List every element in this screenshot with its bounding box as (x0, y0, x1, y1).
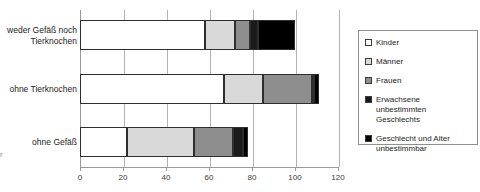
x-tick (338, 167, 339, 171)
bar-segment (224, 74, 263, 104)
x-tick-label: 40 (162, 173, 171, 182)
bar-segment (80, 74, 224, 104)
bar-segment (194, 127, 233, 157)
x-tick (80, 167, 81, 171)
bar-segment (243, 127, 247, 157)
bar-segment (80, 127, 127, 157)
x-tick-label: 80 (248, 173, 257, 182)
legend-item[interactable]: Kinder (365, 38, 472, 48)
x-tick (295, 167, 296, 171)
bar-segment (235, 20, 250, 50)
legend-items: KinderMännerFrauenErwachsene unbestimmte… (365, 38, 472, 154)
x-tick (166, 167, 167, 171)
x-tick-label: 60 (205, 173, 214, 182)
bar-segment (233, 127, 244, 157)
legend-item[interactable]: Männer (365, 57, 472, 67)
x-tick-label: 100 (288, 173, 301, 182)
stacked-bar-chart: r weder Gefäß noch Tierknochen ohne Tier… (0, 0, 480, 192)
bar-segment (314, 74, 318, 104)
x-tick (252, 167, 253, 171)
bar-segment (250, 20, 259, 50)
legend-swatch-icon (365, 96, 372, 103)
legend-swatch-icon (365, 39, 372, 46)
legend: KinderMännerFrauenErwachsene unbestimmte… (358, 30, 478, 145)
legend-item[interactable]: Erwachsene unbestimmten Geschlechts (365, 95, 472, 125)
x-tick-label: 120 (331, 173, 344, 182)
legend-label: Geschlecht und Alter unbestimmbar (376, 134, 472, 154)
legend-swatch-icon (365, 135, 372, 142)
legend-label: Erwachsene unbestimmten Geschlechts (376, 95, 472, 125)
bar-segment (263, 74, 312, 104)
x-tick (123, 167, 124, 171)
bar-segment (80, 20, 205, 50)
bar-segment (127, 127, 194, 157)
legend-item[interactable]: Frauen (365, 76, 472, 86)
x-tick (209, 167, 210, 171)
bar-segment (258, 20, 295, 50)
legend-item[interactable]: Geschlecht und Alter unbestimmbar (365, 134, 472, 154)
legend-label: Kinder (376, 38, 399, 48)
legend-swatch-icon (365, 58, 372, 65)
legend-label: Frauen (376, 76, 401, 86)
x-tick-label: 20 (119, 173, 128, 182)
legend-label: Männer (376, 57, 403, 67)
x-tick-label: 0 (78, 173, 82, 182)
bar-segment (205, 20, 235, 50)
legend-swatch-icon (365, 77, 372, 84)
